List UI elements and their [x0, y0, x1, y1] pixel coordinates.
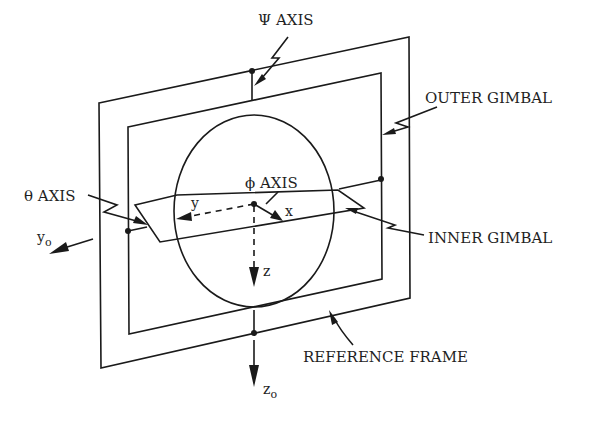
body-x-arrowhead [270, 210, 283, 221]
theta-axis-shaft-right [339, 180, 381, 189]
theta-axis-pivot-right [378, 176, 384, 182]
outer-gimbal-label: OUTER GIMBAL [425, 89, 552, 107]
phi-axis-leader [266, 192, 278, 204]
psi-axis-leader [262, 37, 288, 78]
body-y-label: y [190, 195, 199, 211]
inner-gimbal [135, 190, 364, 242]
psi-axis-label: Ψ AXIS [258, 11, 314, 29]
gimbal-diagram: zo y x z ϕ AXIS θ AXIS yo Ψ AXIS OUTER G… [0, 0, 590, 423]
z0-label: zo [263, 381, 277, 401]
body-z-arrowhead [249, 267, 259, 287]
psi-axis-pivot-bottom [251, 330, 257, 336]
body-y-arrowhead [176, 212, 192, 221]
y0-axis-line [64, 239, 93, 248]
psi-axis-pivot-top [249, 68, 255, 74]
reference-frame-label: REFERENCE FRAME [303, 348, 468, 366]
theta-axis-leader [88, 195, 140, 222]
phi-axis-label: ϕ AXIS [245, 174, 298, 192]
y0-axis-arrowhead [49, 242, 69, 254]
outer-gimbal-arrowhead [382, 128, 396, 135]
theta-axis-label: θ AXIS [24, 187, 76, 205]
y0-label: yo [36, 229, 52, 249]
inner-gimbal-label: INNER GIMBAL [428, 229, 552, 247]
z0-axis-arrowhead [249, 365, 259, 387]
body-z-label: z [263, 263, 270, 279]
outer-gimbal-leader [388, 107, 437, 133]
inner-gimbal-leader [353, 211, 424, 235]
body-x-label: x [285, 203, 293, 219]
theta-axis-pivot-left [125, 228, 131, 234]
